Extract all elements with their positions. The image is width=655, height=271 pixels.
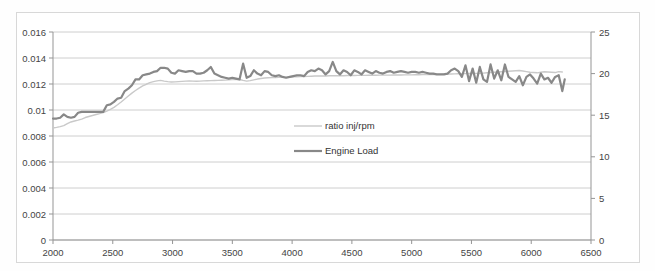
series-group <box>53 62 565 128</box>
y-axis-left-tick-label: 0.008 <box>22 131 46 142</box>
y-axis-right-tick-label: 10 <box>599 151 610 162</box>
x-axis-tick-label: 2000 <box>42 247 63 258</box>
x-axis-tick-label: 4500 <box>341 247 362 258</box>
x-axis-tick-label: 6000 <box>521 247 542 258</box>
legend-group: ratio inj/rpmEngine Load <box>294 120 378 156</box>
gridlines-group <box>53 32 591 240</box>
y-axis-right-tick-label: 0 <box>599 235 604 246</box>
legend-label: Engine Load <box>325 145 378 156</box>
y-axis-left-tick-label: 0.004 <box>22 183 46 194</box>
y-axis-left-tick-label: 0.012 <box>22 79 46 90</box>
x-axis-tick-label: 2500 <box>102 247 123 258</box>
y-axis-left-tick-label: 0 <box>41 235 46 246</box>
axes-group <box>49 32 595 244</box>
chart-root: 00.0020.0040.0060.0080.010.0120.0140.016… <box>0 0 655 271</box>
y-axis-left-tick-label: 0.006 <box>22 157 46 168</box>
y-axis-left-tick-label: 0.01 <box>28 105 47 116</box>
chart-plot-area: 00.0020.0040.0060.0080.010.0120.0140.016… <box>17 13 639 262</box>
series-line <box>53 70 562 127</box>
legend-label: ratio inj/rpm <box>325 120 375 131</box>
y-axis-left-tick-label: 0.014 <box>22 53 46 64</box>
y-axis-right-tick-label: 5 <box>599 193 604 204</box>
y-axis-left-tick-label: 0.002 <box>22 209 46 220</box>
x-axis-tick-label: 4000 <box>282 247 303 258</box>
x-axis-tick-label: 5000 <box>401 247 422 258</box>
x-axis-tick-label: 3500 <box>222 247 243 258</box>
chart-frame: 00.0020.0040.0060.0080.010.0120.0140.016… <box>16 12 640 263</box>
y-axis-left-tick-label: 0.016 <box>22 27 46 38</box>
x-axis-tick-label: 6500 <box>580 247 601 258</box>
x-axis-tick-label: 5500 <box>461 247 482 258</box>
y-axis-right-tick-label: 20 <box>599 68 610 79</box>
y-axis-right-tick-label: 25 <box>599 27 610 38</box>
y-axis-right-tick-label: 15 <box>599 110 610 121</box>
x-axis-tick-label: 3000 <box>162 247 183 258</box>
tick-labels-group: 00.0020.0040.0060.0080.010.0120.0140.016… <box>22 27 609 259</box>
